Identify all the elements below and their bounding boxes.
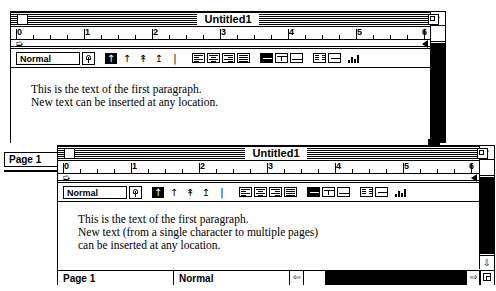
ruler-tick-minor (216, 169, 217, 174)
ruler-tick-minor (318, 169, 319, 174)
ruler-baseline-2 (11, 46, 430, 47)
ruler-label-5: 5 (404, 161, 409, 171)
tab-right-icon[interactable] (337, 187, 350, 197)
scroll-down-arrow-icon[interactable]: ⇩ (480, 255, 494, 269)
align-right-icon[interactable] (269, 187, 282, 197)
ruler-tick-major (267, 163, 268, 174)
ruler-tick-minor (284, 169, 285, 174)
scroll-thumb[interactable] (431, 26, 445, 42)
align-justify-icon[interactable] (284, 187, 297, 197)
line-spacing-one-half-icon[interactable]: ↟ (184, 187, 196, 198)
line-spacing-custom-icon[interactable]: | (169, 53, 181, 64)
window-back-ruler[interactable]: 0 1 2 3 4 5 6 ➭ (11, 27, 430, 49)
scroll-track[interactable] (480, 177, 494, 254)
ruler-tick-major (220, 29, 221, 40)
align-center-icon[interactable] (207, 53, 220, 63)
hscroll-track[interactable] (326, 271, 466, 285)
close-box-icon[interactable] (64, 148, 75, 159)
ruler-tick-minor (165, 169, 166, 174)
indent-marker-icon[interactable]: ➭ (62, 174, 69, 182)
alignment-group[interactable] (238, 187, 298, 197)
background-page-label: Page 1 (9, 153, 41, 166)
ruler-tick-minor (80, 169, 81, 174)
style-name-field[interactable]: Normal (63, 186, 127, 199)
popup-arrow-icon[interactable] (129, 186, 142, 199)
tab-left-icon[interactable] (260, 53, 273, 63)
line-spacing-single-icon[interactable]: ↑ (105, 53, 117, 64)
window-front-text-area[interactable]: This is the text of the first paragraph.… (58, 202, 479, 270)
line-spacing-single-icon[interactable]: ↑ (152, 187, 164, 198)
ruler-tick-major (288, 29, 289, 40)
line-spacing-up-icon[interactable]: ↑ (121, 53, 133, 64)
line-spacing-one-half-icon[interactable]: ↟ (137, 53, 149, 64)
line-spacing-double-icon[interactable]: ↥ (153, 53, 165, 64)
window-front[interactable]: Untitled1 0 1 2 3 4 5 (57, 145, 495, 285)
window-front-ruler[interactable]: 0 1 2 3 4 5 6 ➭ (58, 161, 479, 183)
right-indent-marker-icon[interactable] (471, 174, 477, 182)
window-front-titlebar[interactable]: Untitled1 (58, 146, 494, 161)
columns-one-icon[interactable] (360, 187, 373, 197)
align-left-icon[interactable] (192, 53, 205, 63)
columns-group[interactable] (312, 53, 342, 63)
window-back-text-area[interactable]: This is the text of the first paragraph.… (11, 68, 430, 144)
scroll-thumb[interactable] (480, 160, 494, 176)
tab-left-icon[interactable] (307, 187, 320, 197)
window-back-vertical-scrollbar[interactable]: ⇧ (430, 12, 445, 142)
columns-two-icon[interactable] (328, 53, 341, 63)
horizontal-scrollbar[interactable]: ⇦ ⇨ (290, 271, 494, 285)
zoom-box-icon[interactable] (428, 14, 439, 25)
tab-stop-group[interactable] (259, 53, 304, 63)
ruler-tick-minor (50, 35, 51, 40)
doc-line: can be inserted at any location. (78, 239, 220, 252)
window-front-toolbar[interactable]: Normal ↑ ↑ ↟ ↥ | (58, 183, 479, 202)
chart-icon[interactable] (348, 53, 360, 63)
ruler-tick-minor (148, 169, 149, 174)
line-spacing-double-icon[interactable]: ↥ (200, 187, 212, 198)
alignment-group[interactable] (191, 53, 251, 63)
ruler-label-2: 2 (200, 161, 205, 171)
window-back[interactable]: Untitled1 0 1 2 3 4 5 (10, 11, 446, 143)
zoom-box-icon[interactable] (477, 148, 488, 159)
window-front-title: Untitled1 (245, 147, 306, 160)
scroll-track[interactable] (431, 43, 445, 142)
right-indent-marker-icon[interactable] (422, 40, 428, 48)
tab-center-icon[interactable] (275, 53, 288, 63)
tab-center-icon[interactable] (322, 187, 335, 197)
line-spacing-group[interactable]: ↑ ↑ ↟ ↥ | (150, 187, 230, 198)
scroll-left-arrow-icon[interactable]: ⇦ (290, 271, 304, 285)
tab-right-icon[interactable] (290, 53, 303, 63)
ruler-label-5: 5 (357, 27, 362, 37)
scroll-right-arrow-icon[interactable]: ⇨ (466, 271, 480, 285)
ruler-tick-minor (250, 169, 251, 174)
grow-box-icon[interactable] (480, 271, 494, 285)
line-spacing-group[interactable]: ↑ ↑ ↟ ↥ | (103, 53, 183, 64)
columns-one-icon[interactable] (313, 53, 326, 63)
ruler-label-0: 0 (64, 161, 69, 171)
ruler-tick-minor (97, 169, 98, 174)
line-spacing-custom-icon[interactable]: | (216, 187, 228, 198)
tab-stop-group[interactable] (306, 187, 351, 197)
ruler-tick-minor (322, 35, 323, 40)
align-center-icon[interactable] (254, 187, 267, 197)
line-spacing-up-icon[interactable]: ↑ (168, 187, 180, 198)
indent-marker-icon[interactable]: ➭ (15, 40, 22, 48)
window-back-toolbar[interactable]: Normal ↑ ↑ ↟ ↥ | (11, 49, 430, 68)
ruler-tick-minor (203, 35, 204, 40)
columns-two-icon[interactable] (375, 187, 388, 197)
align-justify-icon[interactable] (237, 53, 250, 63)
ruler-tick-minor (186, 35, 187, 40)
hscroll-thumb[interactable] (304, 271, 326, 285)
columns-group[interactable] (359, 187, 389, 197)
window-back-titlebar[interactable]: Untitled1 (11, 12, 445, 27)
ruler-label-1: 1 (132, 161, 137, 171)
status-style-label: Normal (174, 271, 290, 285)
close-box-icon[interactable] (17, 14, 28, 25)
align-right-icon[interactable] (222, 53, 235, 63)
chart-icon[interactable] (395, 187, 407, 197)
popup-arrow-icon[interactable] (82, 52, 95, 65)
style-name-field[interactable]: Normal (16, 52, 80, 65)
window-front-vertical-scrollbar[interactable]: ⇧ ⇩ (479, 146, 494, 269)
align-left-icon[interactable] (239, 187, 252, 197)
window-front-statusbar[interactable]: Page 1 Normal ⇦ ⇨ (58, 270, 494, 285)
status-page-label: Page 1 (58, 271, 174, 285)
